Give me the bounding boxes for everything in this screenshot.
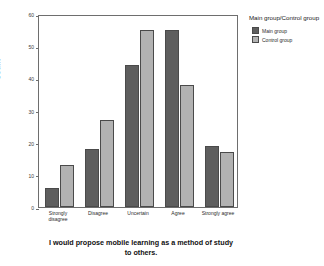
bar [180, 85, 194, 207]
bars-layer [39, 16, 237, 207]
bar-group [199, 16, 239, 207]
x-axis-label-line-1: Strongly agree [194, 210, 242, 216]
bar [140, 30, 154, 207]
bar-group [79, 16, 119, 207]
legend-item: Control group [252, 36, 322, 43]
y-tick-label: 20 [28, 141, 34, 147]
y-tick-label: 40 [28, 76, 34, 82]
bar [85, 149, 99, 207]
bar [205, 146, 219, 207]
y-tick-label: 50 [28, 44, 34, 50]
bar [220, 152, 234, 207]
legend-swatch-icon [252, 27, 259, 34]
x-axis-label: Strongly agree [194, 210, 242, 216]
y-tick-label: 10 [28, 173, 34, 179]
legend-title: Main group/Control group [246, 14, 322, 22]
legend: Main group/Control group Main groupContr… [246, 14, 322, 45]
legend-item-label: Control group [262, 37, 292, 43]
bar-group [119, 16, 159, 207]
y-tick-label: 30 [28, 109, 34, 115]
legend-items: Main groupControl group [246, 27, 322, 43]
plot-area: 6050403020100 [38, 15, 238, 208]
x-axis-label-line-2: disagree [34, 216, 82, 222]
bar-chart: Count 6050403020100 StronglydisagreeDisa… [0, 0, 324, 266]
chart-title: I would propose mobile learning as a met… [30, 238, 252, 257]
x-axis-labels: StronglydisagreeDisagreeUncertainAgreeSt… [38, 210, 238, 232]
bar [165, 30, 179, 207]
bar-group [159, 16, 199, 207]
legend-item: Main group [252, 27, 322, 34]
chart-title-line-2: to others. [30, 248, 252, 258]
chart-title-line-1: I would propose mobile learning as a met… [30, 238, 252, 248]
legend-swatch-icon [252, 36, 259, 43]
bar [60, 165, 74, 207]
y-tick-label: 60 [28, 12, 34, 18]
bar [100, 120, 114, 207]
y-axis-title: Count [0, 59, 1, 80]
bar [45, 188, 59, 207]
legend-item-label: Main group [262, 28, 287, 34]
bar [125, 65, 139, 207]
bar-group [39, 16, 79, 207]
